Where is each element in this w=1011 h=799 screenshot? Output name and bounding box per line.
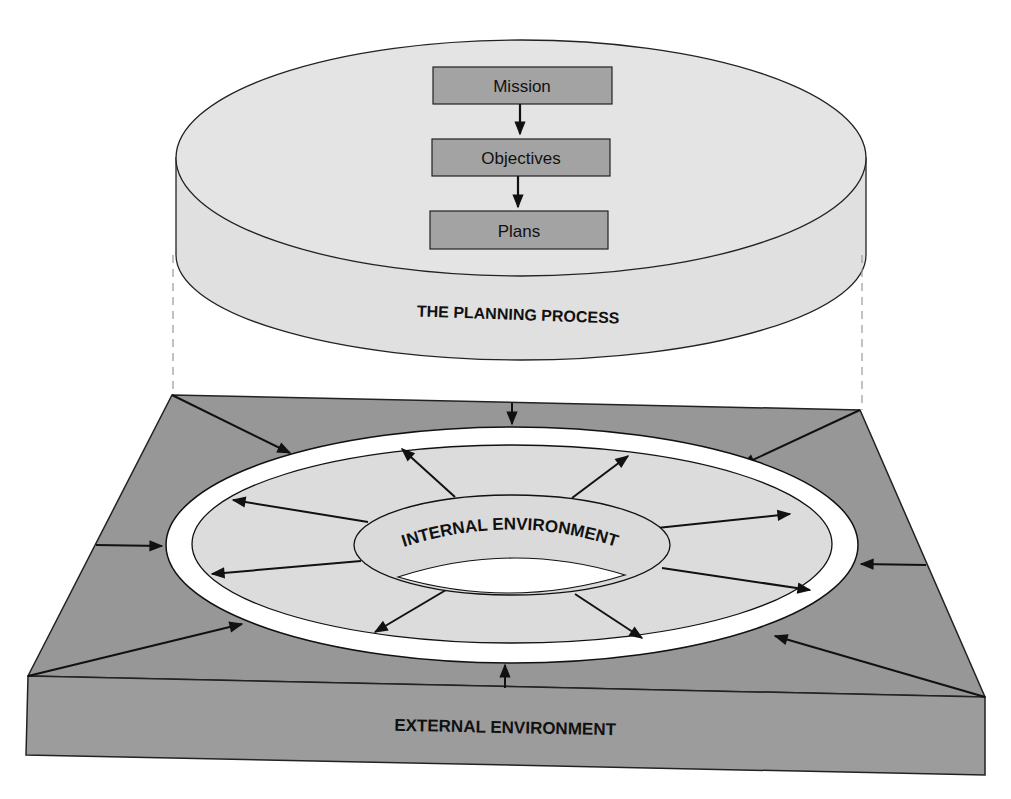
planning-steps: Mission Objectives Plans [430,67,612,249]
plans-label: Plans [498,222,541,241]
diagram: Mission Objectives Plans THE PLANNING PR… [0,0,1011,799]
objectives-label: Objectives [481,149,560,168]
mission-label: Mission [493,77,551,96]
internal-environment-ellipse [354,495,670,595]
